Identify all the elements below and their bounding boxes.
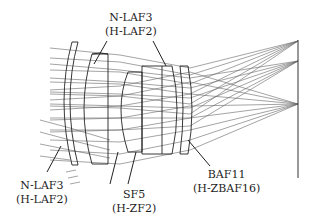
- label-bottom-middle-glass: SF5: [112, 188, 156, 202]
- label-bottom-left-glass: N-LAF3: [16, 179, 68, 193]
- label-top-n-laf3: N-LAF3 (H-LAF2): [105, 11, 157, 39]
- label-bottom-right-baf11: BAF11 (H-ZBAF16): [193, 168, 260, 196]
- ray-bundle: [40, 41, 298, 184]
- label-bottom-middle-sf5: SF5 (H-ZF2): [112, 188, 156, 216]
- label-top-equivalent: (H-LAF2): [105, 25, 157, 39]
- label-bottom-left-equivalent: (H-LAF2): [16, 193, 68, 207]
- label-bottom-right-equivalent: (H-ZBAF16): [193, 182, 260, 196]
- lens-element-1: [64, 42, 78, 165]
- label-bottom-left-n-laf3: N-LAF3 (H-LAF2): [16, 179, 68, 207]
- label-bottom-right-glass: BAF11: [193, 168, 260, 182]
- label-top-glass: N-LAF3: [105, 11, 157, 25]
- label-bottom-middle-equivalent: (H-ZF2): [112, 202, 156, 216]
- lens-element-2: [84, 54, 108, 164]
- lens-element-4: [142, 66, 177, 154]
